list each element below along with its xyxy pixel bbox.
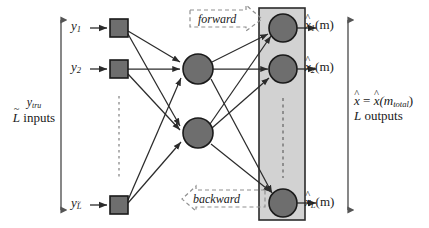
input-arrows: [90, 28, 107, 205]
input-label-y2: y2: [71, 60, 81, 75]
callout-label-backward: backward: [193, 192, 240, 207]
output-label-xL: ^xL(m): [305, 195, 334, 210]
input-label-y1: y1: [71, 19, 81, 34]
output-node-x2: [269, 55, 297, 83]
input-node-yL: [110, 196, 128, 214]
input-label-yL: y~L: [71, 196, 82, 211]
output-label-x2: ^x2(m): [305, 60, 334, 75]
input-count-label: ytru ~L inputs: [8, 96, 60, 124]
output-label-x1: ^x1(m): [305, 18, 334, 33]
output-node-x1: [269, 14, 297, 42]
neural-network-diagram: y1 y2 y~L ^x1(m) ^x2(m) ^xL(m) ytru ~L i…: [0, 0, 429, 228]
hidden-nodes: [183, 54, 213, 148]
output-node-xL: [269, 189, 297, 217]
edges-input-to-hidden: [128, 31, 181, 203]
output-count-label: ^x = ^x(mtotal) L outputs: [354, 94, 429, 123]
hidden-node-h2: [183, 118, 213, 148]
input-node-y1: [110, 19, 128, 37]
callout-label-forward: forward: [198, 12, 236, 27]
input-node-y2: [110, 60, 128, 78]
hidden-node-h1: [183, 54, 213, 84]
